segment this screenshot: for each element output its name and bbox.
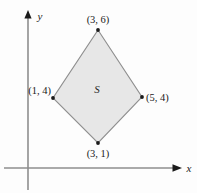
x-axis-arrow-icon [173, 164, 183, 172]
vertex-marker-top [96, 28, 100, 32]
y-axis-arrow-icon [24, 10, 31, 19]
figure-canvas: y x (3, 6) (1, 4) (5, 4) (3, 1) S [0, 0, 197, 193]
coordinate-plane-figure: y x (3, 6) (1, 4) (5, 4) (3, 1) S [0, 0, 197, 193]
vertex-marker-bottom [96, 141, 100, 145]
region-label-s: S [94, 83, 100, 95]
vertex-label-top: (3, 6) [87, 14, 110, 26]
vertex-label-right: (5, 4) [146, 92, 169, 104]
vertex-label-bottom: (3, 1) [87, 148, 110, 160]
vertex-label-left: (1, 4) [28, 85, 51, 97]
y-axis-label: y [37, 10, 43, 22]
x-axis-label: x [186, 162, 192, 174]
vertex-marker-left [51, 96, 55, 100]
vertex-marker-right [140, 95, 144, 99]
